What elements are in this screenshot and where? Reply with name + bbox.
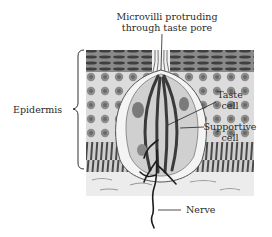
- taste-cell-label-line1: Taste: [214, 89, 246, 100]
- supportive-cell-label-line1: Supportive: [201, 121, 259, 132]
- taste-cell-label-line2: cell: [214, 100, 246, 111]
- supportive-cell-label: Supportive cell: [201, 121, 259, 143]
- nerve-label: Nerve: [186, 204, 215, 215]
- supportive-cell-label-line2: cell: [201, 132, 259, 143]
- epidermis-label: Epidermis: [13, 104, 62, 115]
- microvilli-label-line2: through taste pore: [108, 22, 226, 33]
- taste-bud-illustration: [0, 0, 272, 237]
- microvilli-label: Microvilli protruding through taste pore: [108, 11, 226, 33]
- microvilli-label-line1: Microvilli protruding: [108, 11, 226, 22]
- taste-cell-label: Taste cell: [214, 89, 246, 111]
- epidermis-brace: [73, 50, 84, 169]
